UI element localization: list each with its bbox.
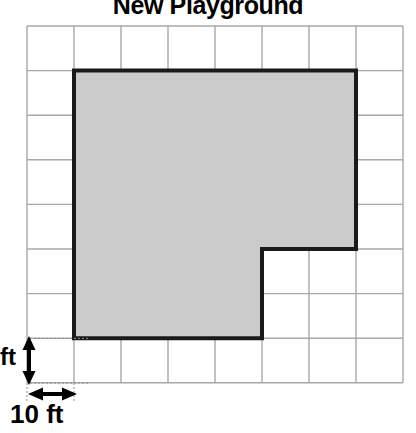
- horizontal-scale-label: 10 ft: [10, 400, 63, 428]
- page-title: New Playground: [0, 0, 416, 19]
- playground-figure: [0, 0, 416, 433]
- vertical-scale-label: ft: [0, 344, 16, 370]
